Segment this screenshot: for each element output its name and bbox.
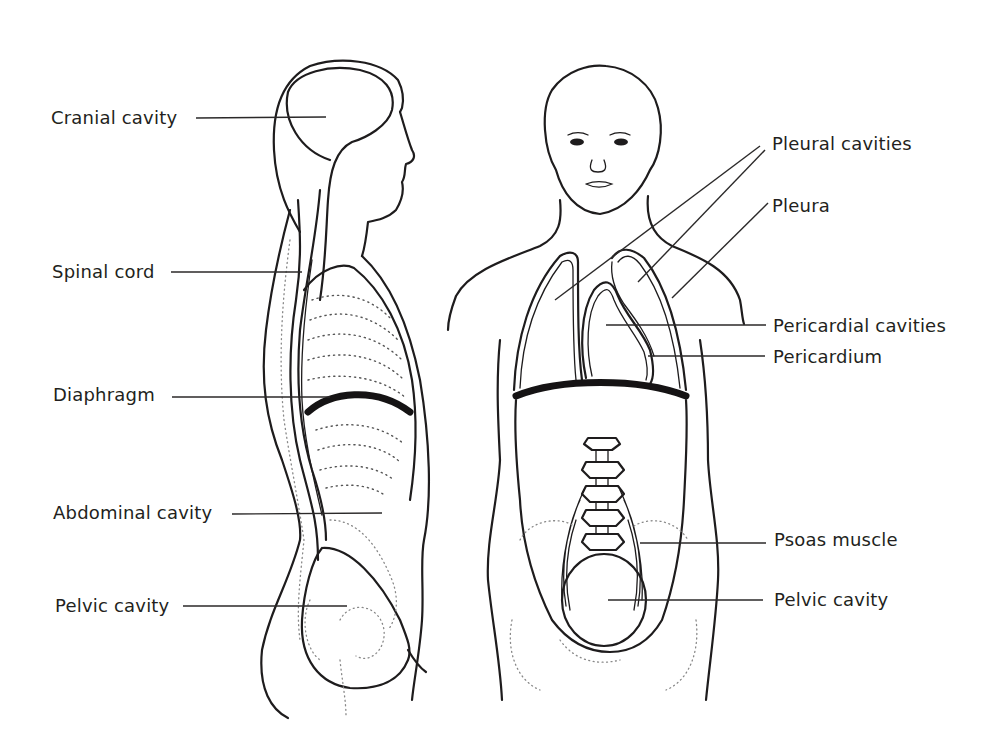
label-pelvic-cavity-anterior: Pelvic cavity [774, 589, 888, 611]
lateral-figure [261, 61, 429, 718]
anterior-figure [448, 66, 744, 700]
label-psoas-muscle: Psoas muscle [774, 529, 898, 551]
leader-pleural-right [638, 150, 765, 282]
left-lung-inner [520, 260, 576, 388]
label-spinal-cord: Spinal cord [52, 261, 155, 283]
leader-abdominal-cavity [232, 513, 382, 514]
label-abdominal-cavity: Abdominal cavity [53, 502, 212, 524]
lateral-thoracic-outline [304, 266, 416, 500]
label-diaphragm: Diaphragm [53, 384, 155, 406]
pericardium-inner-1 [588, 290, 647, 380]
lateral-vertebrae-dots [281, 240, 304, 640]
lumbar-spine [582, 438, 624, 550]
anterior-torso-right [700, 340, 718, 700]
label-pericardium: Pericardium [773, 346, 882, 368]
label-pleural-cavities: Pleural cavities [772, 133, 912, 155]
anterior-neck-left [448, 200, 561, 330]
psoas-right [620, 490, 642, 610]
spinal-canal-back [290, 200, 318, 560]
label-pericardial-cavities: Pericardial cavities [773, 315, 946, 337]
lateral-back-outline [261, 210, 300, 718]
label-pleura: Pleura [772, 195, 830, 217]
anterior-diaphragm [516, 383, 686, 397]
leader-lines [171, 117, 768, 606]
pericardium-outer [582, 282, 653, 384]
anterior-pelvis-dots [510, 521, 697, 690]
anterior-head [545, 66, 661, 214]
body-cavities-diagram: Cranial cavity Spinal cord Diaphragm Abd… [0, 0, 996, 756]
label-pelvic-cavity-lateral: Pelvic cavity [55, 595, 169, 617]
abdominal-outline-right [610, 400, 687, 652]
lateral-head-outer [274, 61, 403, 232]
leader-cranial-cavity [196, 117, 326, 118]
left-lung-outer [514, 253, 582, 390]
psoas-left [562, 490, 584, 610]
spinal-cord-line [299, 190, 327, 540]
leader-pleura [672, 203, 768, 298]
anterior-face [568, 133, 630, 187]
anterior-torso-left [488, 340, 502, 700]
right-lung-inner [618, 256, 680, 388]
label-cranial-cavity: Cranial cavity [51, 107, 177, 129]
